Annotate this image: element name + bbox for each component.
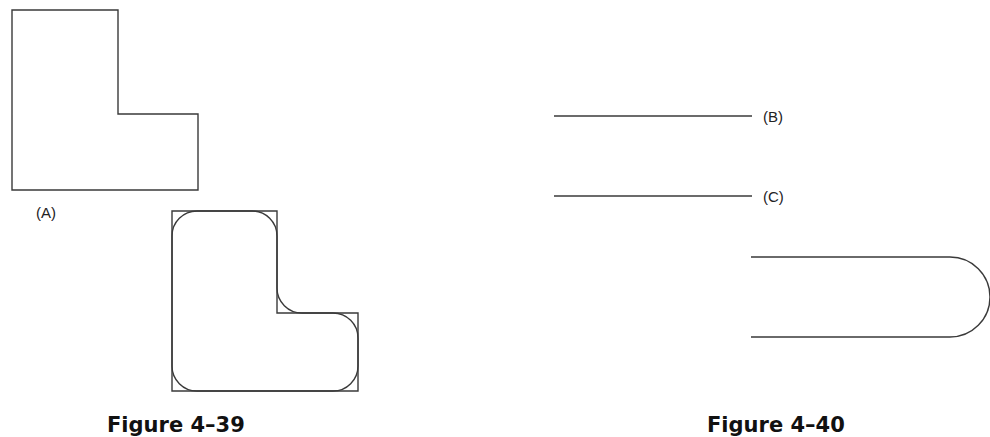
drawing-canvas: (A) Figure 4–39 (B) (C) Figure 4–40: [0, 0, 990, 437]
slot-shape: [751, 257, 990, 337]
caption-figure-4-40: Figure 4–40: [707, 413, 845, 437]
figure-4-40: (B) (C) Figure 4–40: [554, 108, 990, 437]
l-shape-construction-outline: [172, 211, 358, 391]
figure-4-39: (A) Figure 4–39: [12, 10, 358, 437]
caption-figure-4-39: Figure 4–39: [107, 413, 245, 437]
label-b: (B): [763, 108, 783, 125]
l-shape-sharp-corners: [12, 10, 198, 190]
label-a: (A): [36, 204, 56, 221]
label-c: (C): [763, 188, 784, 205]
l-shape-filleted: [172, 211, 358, 391]
